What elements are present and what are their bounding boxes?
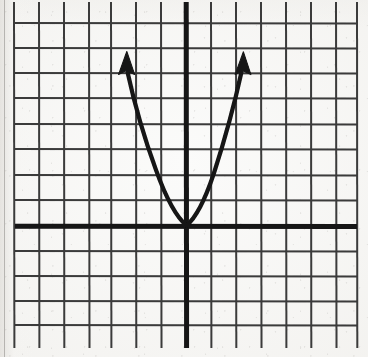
grid-line-vertical (261, 2, 262, 348)
grid-line-vertical (161, 2, 162, 348)
graph-paper-figure: y = 1.25 x^2 (0, 0, 368, 357)
coordinate-plane: y = 1.25 x^2 (0, 0, 368, 357)
grid-line-vertical (336, 2, 337, 348)
right-arrowhead-icon (235, 52, 251, 75)
left-arrowhead-icon (119, 52, 135, 75)
grid-line-vertical (89, 2, 90, 348)
